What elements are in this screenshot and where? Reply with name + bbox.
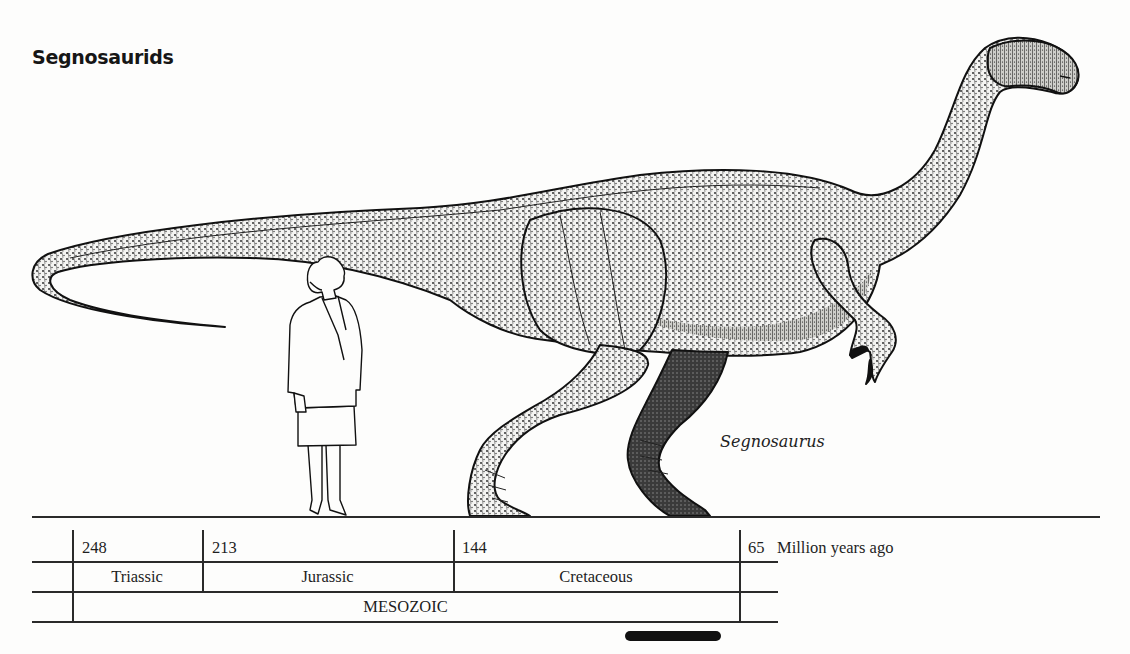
period-triassic: Triassic [72,567,202,587]
timeline-row-divider-1 [32,561,778,563]
period-cretaceous: Cretaceous [453,567,739,587]
tick-label-144: 144 [462,538,487,558]
timeline-row-divider-2 [32,591,778,593]
segnosaurus-illustration [0,0,1130,654]
tick-label-213: 213 [212,538,237,558]
era-mesozoic: MESOZOIC [72,597,739,617]
tick-label-248: 248 [82,538,107,558]
timeline-row-divider-3 [32,621,778,623]
tick-line-65 [739,530,741,622]
ground-line [32,516,1100,518]
tick-label-65: 65 [748,538,765,558]
dinosaur-figure [32,38,1078,516]
unit-label: Million years ago [777,538,893,558]
species-label: Segnosaurus [720,432,825,451]
period-jurassic: Jurassic [202,567,453,587]
human-scale-figure [288,257,362,515]
existence-range-bar [625,631,721,641]
